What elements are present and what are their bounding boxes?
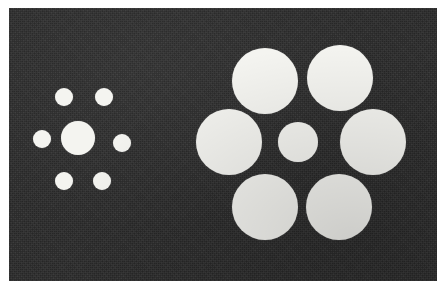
left-target-circle	[61, 121, 95, 155]
right-target-circle	[278, 122, 318, 162]
right-inducer-circle-2	[307, 45, 373, 111]
left-inducer-circle-1	[55, 88, 73, 106]
figure-canvas	[0, 0, 446, 289]
right-inducer-circle-4	[340, 109, 406, 175]
left-inducer-circle-5	[55, 172, 73, 190]
left-inducer-circle-6	[93, 172, 111, 190]
left-inducer-circle-3	[33, 130, 51, 148]
right-inducer-circle-5	[232, 174, 298, 240]
left-inducer-circle-4	[113, 134, 131, 152]
left-inducer-circle-2	[95, 88, 113, 106]
right-inducer-circle-3	[196, 109, 262, 175]
right-inducer-circle-6	[306, 174, 372, 240]
right-inducer-circle-1	[232, 48, 298, 114]
stimulus-panel	[9, 8, 437, 281]
